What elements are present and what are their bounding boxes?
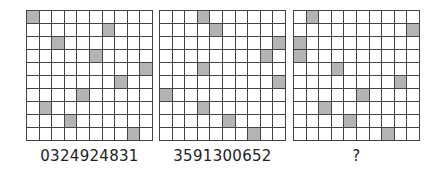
grid-cell <box>77 37 89 49</box>
grid-cell <box>173 63 185 75</box>
shaded-cell <box>40 102 52 114</box>
grid-cell <box>185 102 197 114</box>
grid-cell <box>198 24 210 36</box>
grid-cell <box>344 76 356 88</box>
grid-2-label: 3591300652 <box>159 147 286 165</box>
grid-cell <box>395 63 407 75</box>
grid-cell <box>273 63 285 75</box>
shaded-cell <box>115 76 127 88</box>
grid-cell <box>332 76 344 88</box>
grid-cell <box>370 102 382 114</box>
grid-cell <box>382 89 394 101</box>
grid-cell <box>77 76 89 88</box>
grid-cell <box>128 11 140 23</box>
grid-cell <box>27 24 39 36</box>
shaded-cell <box>198 11 210 23</box>
shaded-cell <box>198 63 210 75</box>
grid-cell <box>319 50 331 62</box>
grid-cell <box>52 50 64 62</box>
grid-cell <box>90 63 102 75</box>
grid-cell <box>185 63 197 75</box>
grid-cell <box>370 37 382 49</box>
grid-cell <box>103 63 115 75</box>
grid-cell <box>173 89 185 101</box>
grid-cell <box>140 128 152 140</box>
grid-cell <box>90 115 102 127</box>
grid-cell <box>103 37 115 49</box>
grid-cell <box>357 76 369 88</box>
grid-cell <box>261 37 273 49</box>
shaded-cell <box>294 37 306 49</box>
grid-cell <box>357 50 369 62</box>
grid-cell <box>210 76 222 88</box>
grid-cell <box>90 11 102 23</box>
grid-cell <box>236 102 248 114</box>
grid-cell <box>223 76 235 88</box>
grid-cell <box>382 76 394 88</box>
grid-cell <box>185 76 197 88</box>
shaded-cell <box>223 115 235 127</box>
grid-cell <box>344 128 356 140</box>
grid-cell <box>395 11 407 23</box>
grid-cell <box>344 37 356 49</box>
grid-cell <box>65 37 77 49</box>
grid-cell <box>261 63 273 75</box>
grid-cell <box>185 24 197 36</box>
grid-cell <box>40 37 52 49</box>
grid-cell <box>77 50 89 62</box>
grid-cell <box>40 128 52 140</box>
grid-cell <box>395 102 407 114</box>
grid-cell <box>115 128 127 140</box>
grid-cell <box>248 24 260 36</box>
grid-cell <box>90 24 102 36</box>
grid-cell <box>395 37 407 49</box>
grid-cell <box>357 115 369 127</box>
grid-cell <box>140 11 152 23</box>
grid-cell <box>198 76 210 88</box>
shaded-cell <box>77 89 89 101</box>
grid-3-label: ? <box>293 147 420 165</box>
grid-cell <box>332 50 344 62</box>
grid-cell <box>223 50 235 62</box>
grid-cell <box>294 24 306 36</box>
shaded-cell <box>382 128 394 140</box>
grid-cell <box>210 50 222 62</box>
grid-cell <box>357 11 369 23</box>
grid-cell <box>65 63 77 75</box>
grid-cell <box>90 76 102 88</box>
grid-cell <box>370 50 382 62</box>
grid-cell <box>160 102 172 114</box>
grid-cell <box>140 115 152 127</box>
shaded-cell <box>273 37 285 49</box>
grid-cell <box>115 11 127 23</box>
grid-cell <box>27 128 39 140</box>
grid-cell <box>332 37 344 49</box>
grid-cell <box>140 89 152 101</box>
grid-cell <box>395 89 407 101</box>
grid-cell <box>382 24 394 36</box>
grid-cell <box>40 76 52 88</box>
grid-cell <box>332 11 344 23</box>
grid-cell <box>294 102 306 114</box>
shaded-cell <box>332 63 344 75</box>
grid-cell <box>128 102 140 114</box>
grid-cell <box>140 76 152 88</box>
grid-cell <box>210 128 222 140</box>
grid-cell <box>173 128 185 140</box>
grid-cell <box>248 63 260 75</box>
grid-cell <box>115 115 127 127</box>
grid-cell <box>407 11 419 23</box>
grid-cell <box>236 63 248 75</box>
grid-cell <box>27 37 39 49</box>
grid-cell <box>248 50 260 62</box>
grid-cell <box>332 128 344 140</box>
grid-cell <box>382 11 394 23</box>
shaded-cell <box>90 50 102 62</box>
grid-cell <box>173 11 185 23</box>
shaded-cell <box>52 37 64 49</box>
grid-cell <box>319 76 331 88</box>
shaded-cell <box>261 50 273 62</box>
grid-cell <box>173 50 185 62</box>
grid-cell <box>198 89 210 101</box>
grid-cell <box>407 63 419 75</box>
